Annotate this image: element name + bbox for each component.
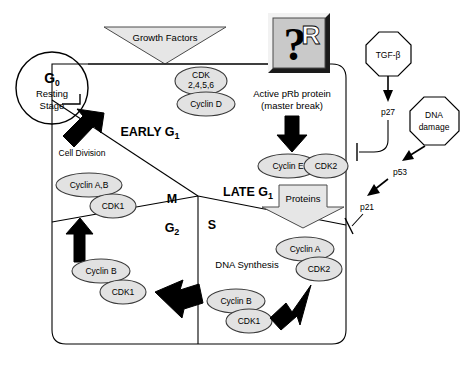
prb-caption-line2: (master break) [261, 100, 323, 111]
late-g1-to-s-arrow [270, 285, 311, 330]
cdk1-left-label: CDK1 [112, 287, 135, 297]
cdk-group-line1: CDK [192, 70, 210, 80]
cyclin-b-right-label: Cyclin B [220, 296, 252, 306]
cell-division-arrow [63, 109, 104, 147]
dna-damage-to-p53-arrow [402, 146, 425, 161]
g0-label: G0 [44, 70, 60, 88]
dna-damage-line2: damage [419, 122, 450, 132]
p53-to-p21-arrow [367, 179, 388, 196]
cyclin-b-left-label: Cyclin B [85, 266, 117, 276]
prb-r-letter-icon: R [302, 20, 321, 50]
s-to-g2-arrow [155, 280, 203, 318]
tgf-beta-node: TGF-β [366, 32, 411, 76]
prb-caption-line1: Active pRb protein [253, 88, 331, 99]
phase-m-label: M [167, 192, 177, 206]
cyclin-a-right-label: Cyclin A [290, 244, 321, 254]
cdk2-right-label: CDK2 [308, 264, 331, 274]
p27-inhibition-connector [357, 120, 388, 161]
cyclin-ab-label: Cyclin A,B [70, 180, 109, 190]
g0-resting-line2: Stage [40, 100, 65, 111]
growth-factors-banner: Growth Factors [104, 27, 226, 64]
cdk1-right-node: CDK1 [226, 309, 272, 333]
g2-to-m-arrow [66, 218, 93, 262]
cyclin-ab-node: Cyclin A,B [56, 173, 122, 197]
prb-to-cyclin-e-arrow [277, 116, 307, 152]
cyclin-d-label: Cyclin D [190, 99, 222, 109]
proteins-label: Proteins [286, 193, 321, 204]
p27-label: p27 [381, 107, 395, 117]
cdk-2456-complex: CDK 2,4,5,6 [175, 67, 227, 95]
p21-label: p21 [360, 202, 374, 212]
cdk1-top-node: CDK1 [90, 194, 136, 218]
active-prb-protein-box: ? R [268, 13, 330, 73]
cdk1-left-node: CDK1 [100, 280, 146, 304]
dna-damage-node: DNA damage [410, 97, 459, 145]
tgf-beta-to-p27-arrow [383, 76, 393, 102]
cdk2-early-label: CDK2 [315, 161, 338, 171]
cell-division-label: Cell Division [59, 148, 106, 158]
cyclin-d-node: Cyclin D [177, 92, 235, 116]
early-g1-label: EARLY G1 [120, 125, 179, 141]
dna-damage-line1: DNA [425, 110, 443, 120]
g0-resting-line1: Resting [36, 88, 68, 99]
cdk2-early-node: CDK2 [304, 154, 348, 178]
proteins-banner: Proteins [262, 185, 344, 228]
p21-inhibition-connector [345, 214, 363, 234]
phase-s-label: S [208, 218, 216, 232]
cell-cycle-diagram: G0 Resting Stage Growth Factors CDK 2,4,… [0, 0, 466, 366]
cdk-group-line2: 2,4,5,6 [188, 80, 214, 90]
cyclin-b-left-node: Cyclin B [72, 259, 130, 283]
dna-synthesis-label: DNA Synthesis [215, 259, 279, 270]
cdk1-top-label: CDK1 [102, 201, 125, 211]
cdk1-right-label: CDK1 [238, 316, 261, 326]
phase-g2-label: G2 [165, 221, 180, 237]
p53-label: p53 [393, 167, 407, 177]
cdk2-right-node: CDK2 [296, 257, 342, 281]
cyclin-e-label: Cyclin E [272, 161, 304, 171]
growth-factors-label: Growth Factors [133, 32, 198, 43]
late-g1-label: LATE G1 [223, 185, 273, 201]
tgf-beta-label: TGF-β [376, 50, 401, 60]
